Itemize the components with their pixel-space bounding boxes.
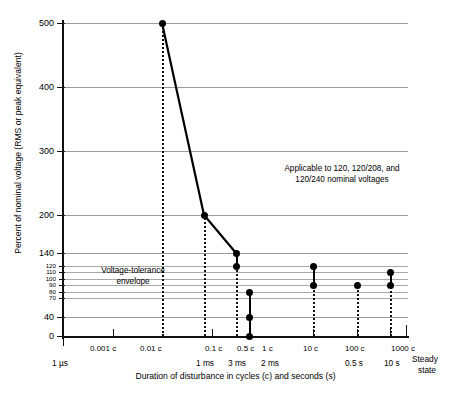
x-label-1ms: 1 ms [196,359,214,368]
x-label-steady-line1: Steady [412,355,438,364]
applicable-note-line1: Applicable to 120, 120/208, and [252,163,432,174]
applicable-note: Applicable to 120, 120/208, and 120/240 … [252,163,432,185]
x-label-001c: 0.01 c [140,345,162,353]
data-point [246,333,253,340]
x-label-1c: 1 c [262,345,273,353]
x-tick-1us [63,336,64,346]
data-point [387,282,394,289]
x-label-10c: 10 c [303,345,318,353]
data-point [246,289,253,296]
gridline-200 [63,215,408,216]
y-tick-400 [57,87,65,88]
x-label-05s: 0.5 s [345,359,363,368]
gridline-300 [63,151,408,152]
data-point [246,314,253,321]
x-label-1000c: 1000 c [391,345,415,353]
x-tick-10c [313,329,314,337]
x-tick-01c [212,329,213,337]
x-label-2ms: 2 ms [261,359,279,368]
y-tick-500 [57,23,65,24]
x-tick-0001c [113,329,114,337]
tolerance-curve [0,0,469,394]
vguide-001c [162,24,164,336]
x-axis-end-cap [406,325,407,337]
y-axis-title: Percent of nominal voltage (RMS or peak … [13,3,23,303]
x-label-10s: 10 s [384,359,400,368]
envelope-label-line2: envelope [78,276,188,287]
y-tick-300 [57,151,65,152]
data-point [354,282,361,289]
data-point [201,212,208,219]
gridline-400 [63,87,408,88]
data-point [387,269,394,276]
x-axis-title: Duration of disturbance in cycles (c) an… [63,371,408,381]
x-tick-100c [357,329,358,337]
x-label-steady-line2: state [418,366,436,375]
y-tick-110 [59,272,65,273]
data-point [310,263,317,270]
y-tick-80 [59,292,65,293]
data-point [159,20,166,27]
y-tick-70 [59,298,65,299]
voltage-tolerance-chart: 500 400 300 200 140 120 110 100 90 80 70… [0,0,469,394]
vguide-01c [204,215,206,336]
applicable-note-line2: 120/240 nominal voltages [252,174,432,185]
y-label-0: 0 [10,332,54,341]
y-tick-40 [57,317,65,318]
data-point [310,282,317,289]
x-label-05c: 0.5 c [237,345,254,353]
x-label-1us: 1 µs [52,359,68,368]
y-tick-90 [59,285,65,286]
x-label-3ms: 3 ms [228,359,246,368]
y-tick-100 [59,279,65,280]
x-label-0001c: 0.001 c [90,345,116,353]
data-point [233,250,240,257]
x-tick-1000c [390,329,391,337]
y-tick-140 [57,253,65,254]
x-label-100c: 100 c [345,345,365,353]
envelope-label-line1: Voltage-tolerance [78,265,188,276]
y-label-40: 40 [10,313,54,322]
envelope-label: Voltage-tolerance envelope [78,265,188,287]
data-point [233,263,240,270]
y-tick-200 [57,215,65,216]
x-label-01c: 0.1 c [205,345,222,353]
gridline-500 [63,23,408,24]
y-tick-120 [59,266,65,267]
